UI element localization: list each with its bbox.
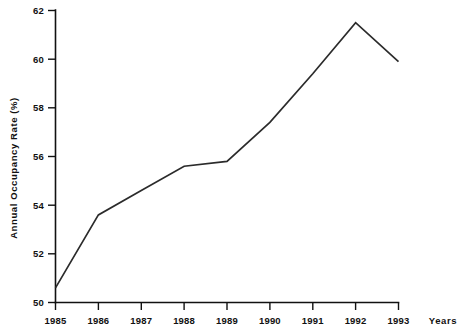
x-tick-label-1985: 1985: [45, 315, 67, 326]
x-axis-title: Years: [429, 315, 457, 326]
y-tick-label-50: 50: [33, 297, 44, 308]
y-tick-label-62: 62: [33, 5, 44, 16]
y-tick-label-52: 52: [33, 248, 44, 259]
x-axis-labels: 1985 1986 1987 1988 1989 1990 1991 1992 …: [45, 315, 410, 326]
x-tick-label-1986: 1986: [87, 315, 109, 326]
y-tick-label-56: 56: [33, 151, 44, 162]
x-tick-label-1992: 1992: [345, 315, 367, 326]
y-tick-label-58: 58: [33, 102, 44, 113]
y-tick-label-54: 54: [33, 200, 44, 211]
y-tick-label-60: 60: [33, 54, 44, 65]
chart-background: [0, 0, 473, 336]
x-tick-label-1989: 1989: [216, 315, 238, 326]
x-tick-label-1990: 1990: [259, 315, 281, 326]
x-tick-label-1991: 1991: [302, 315, 324, 326]
y-axis-title: Annual Occupancy Rate (%): [8, 97, 19, 239]
x-tick-label-1987: 1987: [130, 315, 152, 326]
line-chart-canvas: Annual Occupancy Rate (%) 50 52 54 56 58…: [0, 0, 473, 336]
x-tick-label-1993: 1993: [388, 315, 410, 326]
x-tick-label-1988: 1988: [173, 315, 195, 326]
chart-figure: Annual Occupancy Rate (%) 50 52 54 56 58…: [0, 0, 473, 336]
